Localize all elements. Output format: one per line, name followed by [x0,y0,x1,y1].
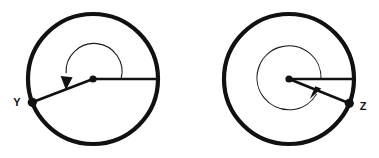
right-circle-diagram: Z [224,14,367,144]
label-y: Y [13,96,21,108]
geometry-figure: Y Z [0,0,379,158]
left-angle-arc [66,43,122,79]
right-terminal-radius-to-z [289,79,349,103]
left-center-dot [89,75,96,82]
figure-canvas: Y Z [0,0,379,158]
right-center-dot [285,75,292,82]
left-vertex-dot-y [28,98,37,107]
label-z: Z [360,100,367,112]
right-vertex-dot-z [345,99,354,108]
left-circle-diagram: Y [13,14,158,144]
left-terminal-radius-to-y [32,79,93,102]
